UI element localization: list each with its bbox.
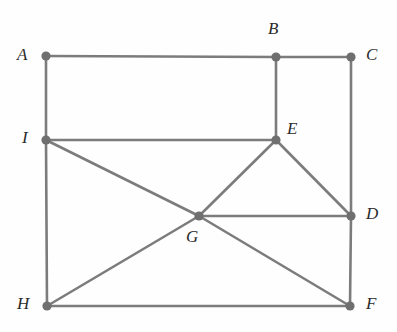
vertex-label-c: C: [366, 46, 377, 63]
edge-e-g: [199, 140, 276, 216]
vertex-label-e: E: [287, 120, 297, 137]
vertex-g: [194, 211, 203, 220]
vertex-label-b: B: [268, 20, 278, 37]
edge-d-f: [350, 216, 351, 306]
vertex-h: [42, 301, 51, 310]
graph-canvas: [0, 0, 397, 332]
vertex-label-h: H: [17, 295, 29, 312]
vertices-group: [41, 51, 355, 310]
edge-i-g: [46, 140, 199, 216]
edge-a-b: [46, 56, 276, 57]
vertex-c: [346, 52, 355, 61]
edge-e-d: [276, 140, 351, 216]
vertex-f: [345, 301, 354, 310]
vertex-label-g: G: [186, 228, 198, 245]
vertex-i: [41, 135, 50, 144]
vertex-label-d: D: [366, 205, 378, 222]
vertex-label-f: F: [366, 295, 376, 312]
vertex-b: [271, 52, 280, 61]
vertex-e: [271, 135, 280, 144]
graph-figure: ABCDEFGHI: [0, 0, 397, 332]
vertex-label-i: I: [22, 129, 28, 146]
edge-g-f: [199, 216, 350, 306]
edges-group: [46, 56, 351, 306]
vertex-d: [346, 211, 355, 220]
vertex-label-a: A: [17, 46, 27, 63]
edge-g-h: [47, 216, 199, 306]
vertex-a: [41, 51, 50, 60]
edge-i-h: [46, 140, 47, 306]
